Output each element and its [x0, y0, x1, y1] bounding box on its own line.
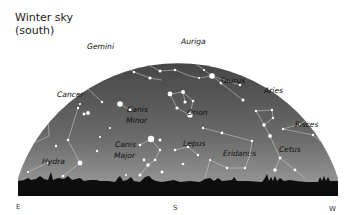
label-hydra: Hydra — [42, 157, 65, 166]
label-eridanus: Eridanus — [223, 149, 256, 158]
label-taurus: Taurus — [220, 76, 245, 85]
label-cetus: Cetus — [279, 145, 301, 154]
label-orion: Orion — [187, 108, 208, 117]
direction-west: W — [329, 205, 336, 213]
star-chart: Gemini Auriga Cancer Taurus Aries Canis … — [0, 0, 352, 215]
label-cancer: Cancer — [57, 90, 85, 99]
label-canis-major-2: Major — [114, 151, 136, 160]
sky-dome — [18, 63, 338, 196]
direction-south: S — [173, 204, 177, 212]
label-aries: Aries — [263, 86, 283, 95]
label-canis-minor-2: Minor — [126, 116, 148, 125]
direction-east: E — [16, 203, 20, 211]
label-lepus: Lepus — [183, 139, 206, 148]
label-auriga: Auriga — [180, 37, 206, 46]
label-canis-minor-1: Canis — [127, 105, 148, 114]
label-pisces: Pisces — [295, 120, 318, 129]
label-gemini: Gemini — [87, 42, 115, 51]
label-canis-major-1: Canis — [115, 140, 136, 149]
